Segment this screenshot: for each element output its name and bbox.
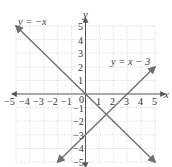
svg-text:1: 1 [96,96,101,107]
y-axis-label: y [82,8,88,20]
svg-text:4: 4 [138,96,143,107]
eq-label-neg-x: y = −x [17,16,47,27]
svg-text:5: 5 [152,96,157,107]
svg-text:4: 4 [78,35,83,46]
coordinate-plane: y x y = −x y = x − 3 −5 −4 −3 −2 −1 1 2 … [0,0,172,167]
svg-text:−4: −4 [73,143,84,154]
eq-label-x-minus-3: y = x − 3 [110,56,150,67]
svg-text:1: 1 [78,75,83,86]
svg-text:−2: −2 [47,96,58,107]
svg-text:−2: −2 [73,116,84,127]
svg-text:2: 2 [78,62,83,73]
svg-text:−3: −3 [33,96,44,107]
svg-text:5: 5 [78,21,83,32]
x-axis-label: x [163,88,169,100]
svg-text:−5: −5 [73,157,84,167]
svg-text:−3: −3 [73,130,84,141]
svg-text:2: 2 [110,96,115,107]
svg-text:−5: −5 [4,96,15,107]
svg-text:−4: −4 [19,96,30,107]
svg-text:3: 3 [78,48,83,59]
svg-text:3: 3 [124,96,129,107]
svg-text:−1: −1 [61,96,72,107]
svg-text:−1: −1 [73,103,84,114]
